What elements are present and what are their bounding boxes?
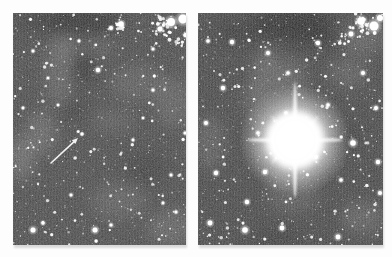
supernova-outburst-image bbox=[198, 13, 383, 245]
supernova-core bbox=[276, 121, 314, 159]
supernova-photo-panel bbox=[198, 13, 383, 245]
scan-stripes bbox=[13, 13, 186, 245]
figure-page bbox=[0, 0, 392, 257]
pre-supernova-field-image bbox=[13, 13, 186, 245]
pre-supernova-photo-panel bbox=[13, 13, 186, 245]
